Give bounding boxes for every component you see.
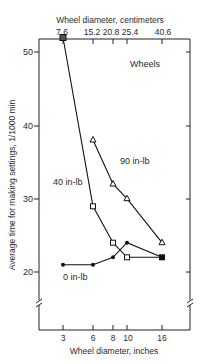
top-tick-label: 40.6 bbox=[155, 27, 172, 37]
series-40-markers bbox=[60, 35, 130, 260]
y-ticks bbox=[34, 52, 190, 272]
y-tick-labels: 50 40 30 20 bbox=[23, 47, 33, 277]
top-axis-title: Wheel diameter, centimeters bbox=[56, 15, 164, 25]
x-tick-label: 10 bbox=[123, 333, 133, 343]
series-90-markers bbox=[90, 137, 165, 245]
series-0-markers bbox=[61, 241, 129, 267]
top-tick-labels: 7.6 15.2 20.8 25.4 40.6 bbox=[56, 27, 171, 37]
series-label-90: 90 in-lb bbox=[120, 156, 150, 166]
x-tick-label: 8 bbox=[111, 333, 116, 343]
x-tick-labels: 3 6 8 10 16 bbox=[61, 333, 167, 343]
x-tick-label: 3 bbox=[61, 333, 66, 343]
x-axis-title: Wheel diameter, inches bbox=[70, 346, 158, 356]
top-ticks bbox=[63, 39, 162, 44]
x-tick-label: 16 bbox=[157, 333, 167, 343]
y-tick-label: 20 bbox=[23, 267, 33, 277]
legend-title: Wheels bbox=[130, 59, 161, 69]
chart: 50 40 30 20 Average time for making sett… bbox=[0, 0, 207, 364]
x-tick-label: 6 bbox=[91, 333, 96, 343]
series-0-line bbox=[63, 243, 162, 265]
top-tick-label: 20.8 bbox=[103, 27, 120, 37]
shared-end-marker bbox=[159, 254, 165, 260]
y-tick-label: 40 bbox=[23, 121, 33, 131]
y-tick-label: 30 bbox=[23, 194, 33, 204]
series-label-0: 0 in-lb bbox=[63, 272, 88, 282]
top-tick-label: 25.4 bbox=[122, 27, 139, 37]
series-label-40: 40 in-lb bbox=[53, 177, 83, 187]
y-axis-title: Average time for making settings, 1/1000… bbox=[7, 100, 17, 271]
x-ticks bbox=[63, 325, 162, 330]
y-tick-label: 50 bbox=[23, 47, 33, 57]
top-tick-label: 15.2 bbox=[84, 27, 101, 37]
